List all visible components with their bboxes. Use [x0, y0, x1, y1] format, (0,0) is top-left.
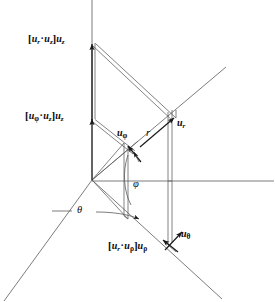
subscript-z-4: z — [61, 115, 64, 123]
label-theta-angle: θ — [77, 205, 82, 216]
subscript-r-3: r — [183, 122, 186, 130]
label-ur-dot-urho-urho: [ur·uρ]uρ — [108, 240, 147, 253]
label-ur-dot-uz-uz: [ur·uz]uz — [28, 33, 65, 46]
spherical-coordinates-figure: [ur·uz]uz [uφ·uz]uz [ur·uρ]uρ ur uφ uθ r… — [0, 0, 275, 302]
slab-edge-upper-left — [92, 143, 124, 180]
subscript-phi-2: φ — [123, 131, 128, 140]
label-u-theta: uθ — [181, 229, 190, 241]
inner-diagonal-origin-uphi — [92, 141, 138, 180]
label-uphi-dot-uz-uz: [uφ·uz]uz — [25, 110, 64, 123]
label-u-phi: uφ — [117, 128, 127, 140]
subscript-z-2: z — [62, 38, 65, 46]
label-phi-angle: φ — [133, 179, 139, 190]
vector-utheta-arrow — [165, 232, 182, 250]
vector-uphi-arrow — [128, 146, 141, 162]
label-r-distance: r — [146, 128, 150, 139]
slab-edge-lower-left — [92, 180, 128, 219]
vectors-group — [52, 44, 182, 252]
phi-angle-arrow — [134, 152, 139, 162]
secondary-construction-group — [92, 141, 176, 252]
projection-line-ur-upper-b — [96, 44, 177, 119]
subscript-theta-1: θ — [187, 232, 191, 241]
theta-angle-arrow — [96, 212, 139, 219]
projection-line-uphi-b — [95, 120, 135, 152]
projection-line-ur-upper-a — [93, 46, 173, 121]
rho-axis-left-line — [4, 180, 92, 301]
label-u-r: ur — [177, 118, 185, 130]
subscript-rho-2: ρ — [143, 244, 147, 253]
